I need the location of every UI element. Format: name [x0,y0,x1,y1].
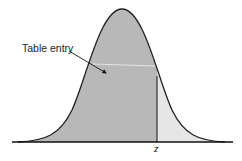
z-axis-label: z [154,144,159,154]
shaded-area-left-of-z [18,9,225,142]
normal-curve-diagram [0,0,242,161]
table-entry-label: Table entry [22,42,73,54]
